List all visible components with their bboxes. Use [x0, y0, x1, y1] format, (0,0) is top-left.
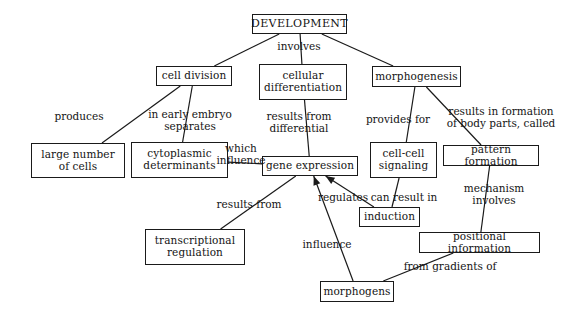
link-label-produces: produces	[48, 110, 110, 122]
node-cell-cell-signaling: cell-cell signaling	[370, 142, 437, 178]
link-label-in-early-embryo-separates: in early embryo separates	[141, 108, 239, 132]
node-morphogens: morphogens	[320, 281, 394, 302]
link-label-can-result-in: can result in	[366, 191, 442, 203]
node-cellular-differentiation: cellular differentiation	[259, 64, 347, 100]
node-large-number-of-cells: large number of cells	[31, 143, 125, 178]
link-label-results-from-differential: results from differential	[258, 110, 340, 134]
link-label-regulates: regulates	[312, 191, 374, 203]
concept-map-canvas: DEVELOPMENTcell divisioncellular differe…	[0, 0, 571, 316]
node-morphogenesis: morphogenesis	[372, 66, 461, 87]
link-label-results-from: results from	[212, 198, 286, 210]
node-gene-expression: gene expression	[262, 156, 358, 176]
link-label-mechanism-involves: mechanism involves	[456, 182, 532, 206]
node-pattern-formation: pattern formation	[443, 145, 539, 166]
link-label-results-in-formation-of-body-parts-called: results in formation of body parts, call…	[439, 105, 563, 129]
node-cell-division: cell division	[156, 66, 232, 86]
node-development: DEVELOPMENT	[252, 14, 347, 34]
node-transcriptional-regulation: transcriptional regulation	[145, 229, 245, 265]
link-label-provides-for: provides for	[360, 113, 436, 125]
link-label-influence: influence	[296, 238, 358, 250]
link-label-involves-top: involves	[266, 40, 332, 52]
node-positional-information: positional information	[419, 232, 540, 253]
node-cytoplasmic-determinants: cytoplasmic determinants	[131, 142, 228, 178]
link-label-from-gradients-of: from gradients of	[398, 260, 502, 272]
node-induction: induction	[359, 207, 420, 227]
arrowhead-morphogens-to-gene-expression	[314, 176, 321, 186]
edge-development-to-morphogenesis	[322, 34, 393, 66]
link-label-which-influence: which influence	[216, 142, 266, 166]
arrowhead-induction-to-gene-expression	[326, 176, 336, 184]
